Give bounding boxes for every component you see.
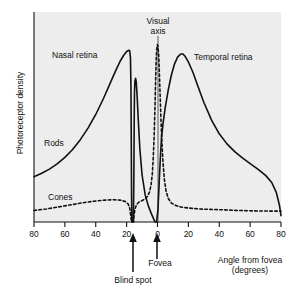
nasal-retina-label: Nasal retina [52,50,97,60]
plot-background [34,12,281,222]
x-tick-label: 40 [86,229,106,239]
x-tick-label: 80 [24,229,44,239]
x-tick-label: 40 [209,229,229,239]
visual-axis-label-line2: axis [150,26,165,36]
x-tick-label: 20 [178,229,198,239]
x-axis-title: Angle from fovea (degrees) [204,255,296,275]
visual-axis-label-line1: Visual [147,16,170,26]
x-axis-title-line2: (degrees) [232,265,268,275]
blind-spot-label: Blind spot [104,275,162,285]
x-axis-title-line1: Angle from fovea [218,255,282,265]
rods-series-label: Rods [44,138,64,148]
y-axis-title: Photoreceptor density [15,53,25,173]
x-tick-label: 20 [117,229,137,239]
x-tick-label: 60 [240,229,260,239]
photoreceptor-density-figure: Photoreceptor density Nasal retina Tempo… [0,0,301,292]
cones-series-label: Cones [48,192,73,202]
x-tick-label: 60 [55,229,75,239]
temporal-retina-label: Temporal retina [194,52,253,62]
visual-axis-label: Visual axis [131,16,185,36]
x-axis-ticks [34,222,281,227]
fovea-label: Fovea [140,258,180,268]
x-tick-label: 0 [148,229,168,239]
x-tick-label: 80 [271,229,291,239]
